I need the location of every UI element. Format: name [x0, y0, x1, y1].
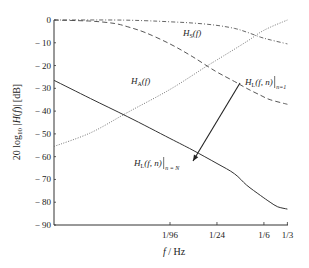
x-tick-label: 1/6 — [258, 230, 270, 240]
y-tick-label: − 10 — [35, 38, 52, 48]
y-tick-label: − 30 — [35, 83, 52, 93]
plot-series — [54, 20, 287, 209]
arrow-shaft — [193, 83, 240, 161]
annotation-condition: n = N — [165, 165, 180, 171]
y-tick-label: − 50 — [35, 129, 52, 139]
series-h-l-f-n-n-1 — [54, 20, 287, 104]
annotation-hl1: HL(f, n) — [244, 77, 273, 88]
annotation-condition: n=1 — [276, 84, 286, 90]
chart: 0− 10− 20− 30− 40− 50− 60− 70− 80− 901/9… — [0, 0, 309, 268]
n-arrow — [193, 83, 240, 161]
x-axis-title: f / Hz — [163, 246, 186, 257]
y-tick-label: − 40 — [35, 106, 52, 116]
annotation-hln: HL(f, n) — [133, 158, 162, 169]
series-h-l-f-n-n-n — [54, 80, 287, 209]
arrow-head — [193, 155, 198, 161]
annotation-ha: HA(f) — [130, 76, 150, 87]
y-tick-label: 0 — [47, 15, 52, 25]
y-tick-label: − 20 — [35, 61, 52, 71]
y-tick-label: − 90 — [35, 220, 52, 230]
y-tick-label: − 60 — [35, 152, 52, 162]
annotation-hs: HS(f) — [182, 28, 201, 39]
y-tick-label: − 70 — [35, 174, 52, 184]
y-axis-title: 20 log10 |H(f)| [dB] — [11, 84, 24, 160]
y-tick-label: − 80 — [35, 197, 52, 207]
x-tick-label: 1/96 — [162, 230, 179, 240]
x-tick-label: 1/24 — [209, 230, 226, 240]
x-tick-label: 1/3 — [282, 230, 294, 240]
axes: 0− 10− 20− 30− 40− 50− 60− 70− 80− 901/9… — [35, 15, 294, 240]
annotations: HS(f)HA(f)HL(f, n)n=1HL(f, n)n = N — [130, 28, 286, 171]
series-h-s-f- — [54, 20, 287, 44]
